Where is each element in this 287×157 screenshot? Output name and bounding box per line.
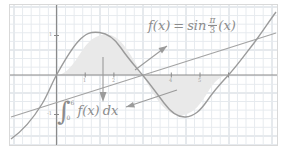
formula-label: f(x)=sinπ3(x) — [148, 17, 236, 36]
integral-label: ∫ 6 0 f(x) dx — [57, 99, 118, 121]
figure-border — [9, 4, 278, 146]
integral-upper-limit: 6 — [71, 99, 75, 106]
integral-integrand: f(x) — [77, 103, 99, 118]
formula-equals: = — [173, 18, 184, 33]
integral-sign: ∫ — [57, 102, 71, 121]
formula-fraction: π3 — [207, 16, 217, 35]
graph-figure: 1 2 4 5 1 -1 — [9, 4, 278, 146]
formula-argument: (x) — [218, 18, 235, 33]
formula-numerator: π — [207, 16, 217, 25]
figure-stage: 1 2 4 5 1 -1 f(x)=sinπ3(x) ∫ 6 0 f(x) dx — [0, 0, 287, 157]
integral-differential: dx — [103, 103, 119, 118]
formula-denominator: 3 — [208, 25, 218, 35]
formula-func: sin — [187, 18, 206, 33]
formula-lhs: f(x) — [148, 18, 170, 33]
